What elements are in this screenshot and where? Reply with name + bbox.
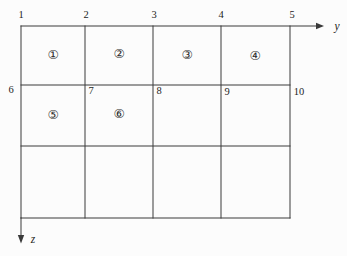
- mesh-grid: [0, 0, 347, 256]
- node-label-7: 7: [88, 86, 93, 97]
- element-number-3: ③: [181, 49, 192, 62]
- node-label-2: 2: [83, 10, 88, 21]
- y-axis-label: y: [334, 21, 339, 33]
- node-label-3: 3: [151, 10, 156, 21]
- grid-lines: [21, 26, 317, 237]
- element-number-4: ④: [249, 50, 260, 63]
- node-label-10: 10: [294, 87, 305, 98]
- node-label-6: 6: [8, 85, 13, 96]
- y-axis-arrow-icon: [316, 23, 324, 29]
- node-label-4: 4: [218, 10, 223, 21]
- element-number-2: ②: [113, 48, 124, 61]
- z-axis-arrow-icon: [18, 235, 24, 244]
- element-number-6: ⑥: [113, 108, 124, 121]
- element-number-5: ⑤: [47, 109, 58, 122]
- z-axis-label: z: [31, 234, 35, 246]
- mesh-figure: 1 2 3 4 5 6 7 8 9 10 ① ② ③ ④ ⑤ ⑥ y z: [0, 0, 347, 256]
- element-number-1: ①: [47, 49, 58, 62]
- node-label-5: 5: [289, 10, 294, 21]
- node-label-8: 8: [156, 86, 161, 97]
- node-label-1: 1: [18, 10, 23, 21]
- node-label-9: 9: [224, 87, 229, 98]
